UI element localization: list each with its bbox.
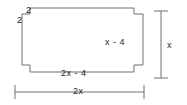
height-dimension-line [154,11,168,78]
notch-left-label: 2 [17,16,23,25]
geometry-figure: 2 2 x - 4 2x - 4 x 2x [0,0,187,105]
overall-height-label: x [167,41,172,50]
right-side-length-label: x - 4 [105,38,125,47]
notch-top-label: 2 [26,6,32,15]
bottom-side-length-label: 2x - 4 [61,69,87,78]
figure-canvas [0,0,187,105]
overall-width-label: 2x [73,87,84,96]
